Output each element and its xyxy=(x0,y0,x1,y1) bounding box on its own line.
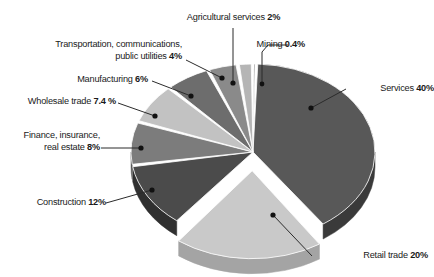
slice-label-finance-line1: Finance, insurance, xyxy=(6,130,100,142)
slice-label-agricultural-services: Agricultural services 2% xyxy=(152,12,315,24)
slice-label-services: Services 40% xyxy=(352,83,434,95)
slice-label-transportation-line2: public utilities xyxy=(115,51,166,61)
slice-label-manufacturing-pct: 6% xyxy=(135,74,148,84)
slice-label-transportation: Transportation, communications, public u… xyxy=(10,39,182,62)
slice-label-agricultural-services-pct: 2% xyxy=(267,12,280,22)
slice-label-finance: Finance, insurance, real estate 8% xyxy=(6,130,100,153)
slice-label-mining-pct: 0.4% xyxy=(285,39,305,49)
leader-dot-transportation xyxy=(219,75,224,80)
slice-label-finance-pct: 8% xyxy=(87,142,100,152)
slice-label-wholesale-trade: Wholesale trade 7.4 % xyxy=(6,96,116,108)
slice-label-agricultural-services-text: Agricultural services xyxy=(187,12,265,22)
slice-label-retail-trade-pct: 20% xyxy=(410,250,428,260)
slice-label-construction: Construction 12% xyxy=(18,197,106,209)
leader-dot-retail-trade xyxy=(270,212,275,217)
leader-dot-services xyxy=(308,105,313,110)
slice-label-wholesale-trade-pct: 7.4 % xyxy=(94,96,117,106)
slice-label-services-pct: 40% xyxy=(416,83,434,93)
leader-dot-finance xyxy=(138,145,143,150)
slice-label-mining: Mining 0.4% xyxy=(190,39,305,51)
slice-label-construction-pct: 12% xyxy=(88,197,106,207)
leader-dot-manufacturing xyxy=(188,93,193,98)
slice-label-transportation-line1: Transportation, communications, xyxy=(10,39,182,51)
slice-label-construction-text: Construction xyxy=(37,197,86,207)
slice-label-services-text: Services xyxy=(380,83,414,93)
leader-dot-construction xyxy=(149,187,154,192)
slice-label-mining-text: Mining xyxy=(257,39,283,49)
slice-label-retail-trade-text: Retail trade xyxy=(363,250,408,260)
slice-label-finance-line2: real estate xyxy=(44,142,85,152)
pie-slices-group: Mining 0.4%Services 40%Retail trade 20%C… xyxy=(131,64,375,274)
slice-label-manufacturing-text: Manufacturing xyxy=(77,74,133,84)
slice-label-manufacturing: Manufacturing 6% xyxy=(10,74,148,86)
leader-dot-wholesale-trade xyxy=(152,113,157,118)
slice-label-finance-line2-wrap: real estate 8% xyxy=(6,142,100,154)
slice-label-transportation-line2-wrap: public utilities 4% xyxy=(10,51,182,63)
slice-label-wholesale-trade-text: Wholesale trade xyxy=(28,96,91,106)
leader-dot-mining xyxy=(260,82,265,87)
slice-label-transportation-pct: 4% xyxy=(169,51,182,61)
slice-label-retail-trade: Retail trade 20% xyxy=(318,250,428,262)
leader-dot-agricultural-services xyxy=(230,80,235,85)
